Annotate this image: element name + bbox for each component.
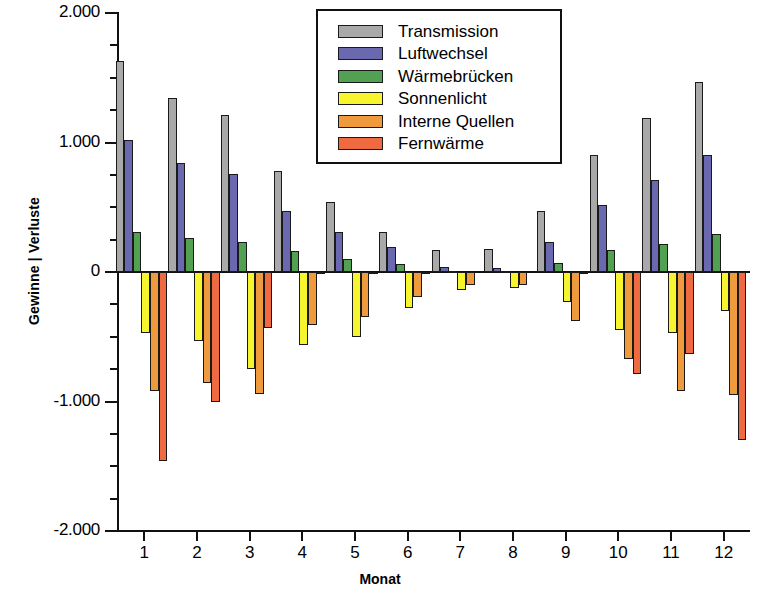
bar-interne-quellen-month-5 — [361, 272, 370, 317]
legend-swatch-icon — [338, 70, 383, 83]
x-tick — [301, 532, 303, 541]
x-tick — [723, 532, 725, 541]
bar-interne-quellen-month-12 — [729, 272, 738, 395]
x-tick-label: 11 — [651, 543, 691, 563]
bar-transmission-month-9 — [537, 211, 546, 272]
legend-label: Sonnenlicht — [398, 90, 487, 107]
legend-item-sonnenlicht: Sonnenlicht — [318, 88, 560, 111]
bar-wärmebrücken-month-1 — [133, 232, 142, 272]
bar-fernwärme-month-6 — [422, 272, 431, 274]
bar-luftwechsel-month-9 — [545, 242, 554, 272]
bar-fernwärme-month-11 — [685, 272, 694, 354]
bar-fernwärme-month-10 — [633, 272, 642, 374]
bar-sonnenlicht-month-10 — [615, 272, 624, 330]
bar-fernwärme-month-5 — [369, 272, 378, 274]
bar-wärmebrücken-month-12 — [712, 234, 721, 272]
bar-fernwärme-month-3 — [264, 272, 273, 328]
x-tick-label: 10 — [598, 543, 638, 563]
y-tick-label: -1.000 — [0, 391, 100, 411]
bar-transmission-month-4 — [274, 171, 283, 272]
x-tick-label: 12 — [704, 543, 744, 563]
x-tick — [512, 532, 514, 541]
bar-fernwärme-month-4 — [317, 272, 326, 274]
y-tick-label: 2.000 — [0, 2, 100, 22]
bar-wärmebrücken-month-5 — [343, 259, 352, 272]
legend-label: Transmission — [398, 23, 498, 40]
bar-sonnenlicht-month-11 — [668, 272, 677, 333]
y-tick-minor — [110, 433, 118, 435]
legend-item-wärmebrücken: Wärmebrücken — [318, 65, 560, 88]
y-tick-minor — [110, 303, 118, 305]
chart-legend: TransmissionLuftwechselWärmebrückenSonne… — [316, 9, 562, 164]
x-tick-label: 3 — [230, 543, 270, 563]
y-tick-major — [105, 401, 118, 403]
bar-interne-quellen-month-6 — [413, 272, 422, 297]
bar-transmission-month-8 — [484, 249, 493, 272]
bar-transmission-month-10 — [590, 155, 599, 272]
bar-luftwechsel-month-4 — [282, 211, 291, 272]
bar-sonnenlicht-month-3 — [247, 272, 256, 369]
x-tick-label: 8 — [493, 543, 533, 563]
bar-interne-quellen-month-10 — [624, 272, 633, 359]
x-tick-label: 5 — [335, 543, 375, 563]
bar-sonnenlicht-month-8 — [510, 272, 519, 288]
bar-luftwechsel-month-2 — [177, 163, 186, 272]
bar-wärmebrücken-month-11 — [659, 244, 668, 272]
bar-wärmebrücken-month-6 — [396, 264, 405, 272]
x-tick — [459, 532, 461, 541]
bar-interne-quellen-month-2 — [203, 272, 212, 383]
x-tick-label: 7 — [440, 543, 480, 563]
bar-luftwechsel-month-5 — [335, 232, 344, 272]
bar-interne-quellen-month-3 — [255, 272, 264, 394]
x-tick — [670, 532, 672, 541]
x-tick — [143, 532, 145, 541]
x-tick — [249, 532, 251, 541]
bar-transmission-month-7 — [432, 250, 441, 272]
bar-chart: Gewinne | Verluste Monat 2.0001.0000-1.0… — [0, 0, 760, 599]
bar-interne-quellen-month-7 — [466, 272, 475, 285]
x-axis-title: Monat — [0, 571, 760, 587]
y-tick-minor — [110, 465, 118, 467]
bar-sonnenlicht-month-4 — [299, 272, 308, 345]
bar-luftwechsel-month-3 — [229, 174, 238, 272]
x-tick — [196, 532, 198, 541]
bar-transmission-month-3 — [221, 115, 230, 272]
bar-sonnenlicht-month-12 — [721, 272, 730, 311]
bar-wärmebrücken-month-9 — [554, 263, 563, 272]
bar-fernwärme-month-12 — [738, 272, 747, 440]
legend-swatch-icon — [338, 92, 383, 105]
y-tick-minor — [110, 368, 118, 370]
legend-label: Luftwechsel — [398, 45, 488, 62]
bar-fernwärme-month-1 — [159, 272, 168, 461]
y-tick-label: -2.000 — [0, 520, 100, 540]
bar-wärmebrücken-month-2 — [185, 238, 194, 272]
bar-sonnenlicht-month-2 — [194, 272, 203, 341]
x-tick-label: 2 — [177, 543, 217, 563]
legend-swatch-icon — [338, 115, 383, 128]
bar-wärmebrücken-month-8 — [501, 271, 510, 273]
bar-wärmebrücken-month-3 — [238, 242, 247, 272]
bar-sonnenlicht-month-5 — [352, 272, 361, 337]
bar-transmission-month-5 — [326, 202, 335, 272]
legend-item-interne-quellen: Interne Quellen — [318, 110, 560, 133]
bar-interne-quellen-month-4 — [308, 272, 317, 325]
legend-label: Fernwärme — [398, 135, 484, 152]
bar-luftwechsel-month-1 — [124, 140, 133, 272]
y-tick-label: 0 — [0, 261, 100, 281]
legend-item-fernwärme: Fernwärme — [318, 133, 560, 156]
bar-fernwärme-month-9 — [580, 272, 589, 274]
x-tick — [354, 532, 356, 541]
x-tick-label: 9 — [546, 543, 586, 563]
bar-interne-quellen-month-11 — [677, 272, 686, 391]
y-tick-major — [105, 12, 118, 14]
bar-luftwechsel-month-7 — [440, 267, 449, 272]
bar-sonnenlicht-month-9 — [563, 272, 572, 302]
x-tick-label: 4 — [282, 543, 322, 563]
legend-label: Wärmebrücken — [398, 68, 513, 85]
x-tick-label: 6 — [388, 543, 428, 563]
bar-interne-quellen-month-1 — [150, 272, 159, 391]
bar-interne-quellen-month-9 — [571, 272, 580, 321]
y-tick-minor — [110, 498, 118, 500]
bar-transmission-month-6 — [379, 232, 388, 272]
bar-luftwechsel-month-12 — [703, 155, 712, 272]
